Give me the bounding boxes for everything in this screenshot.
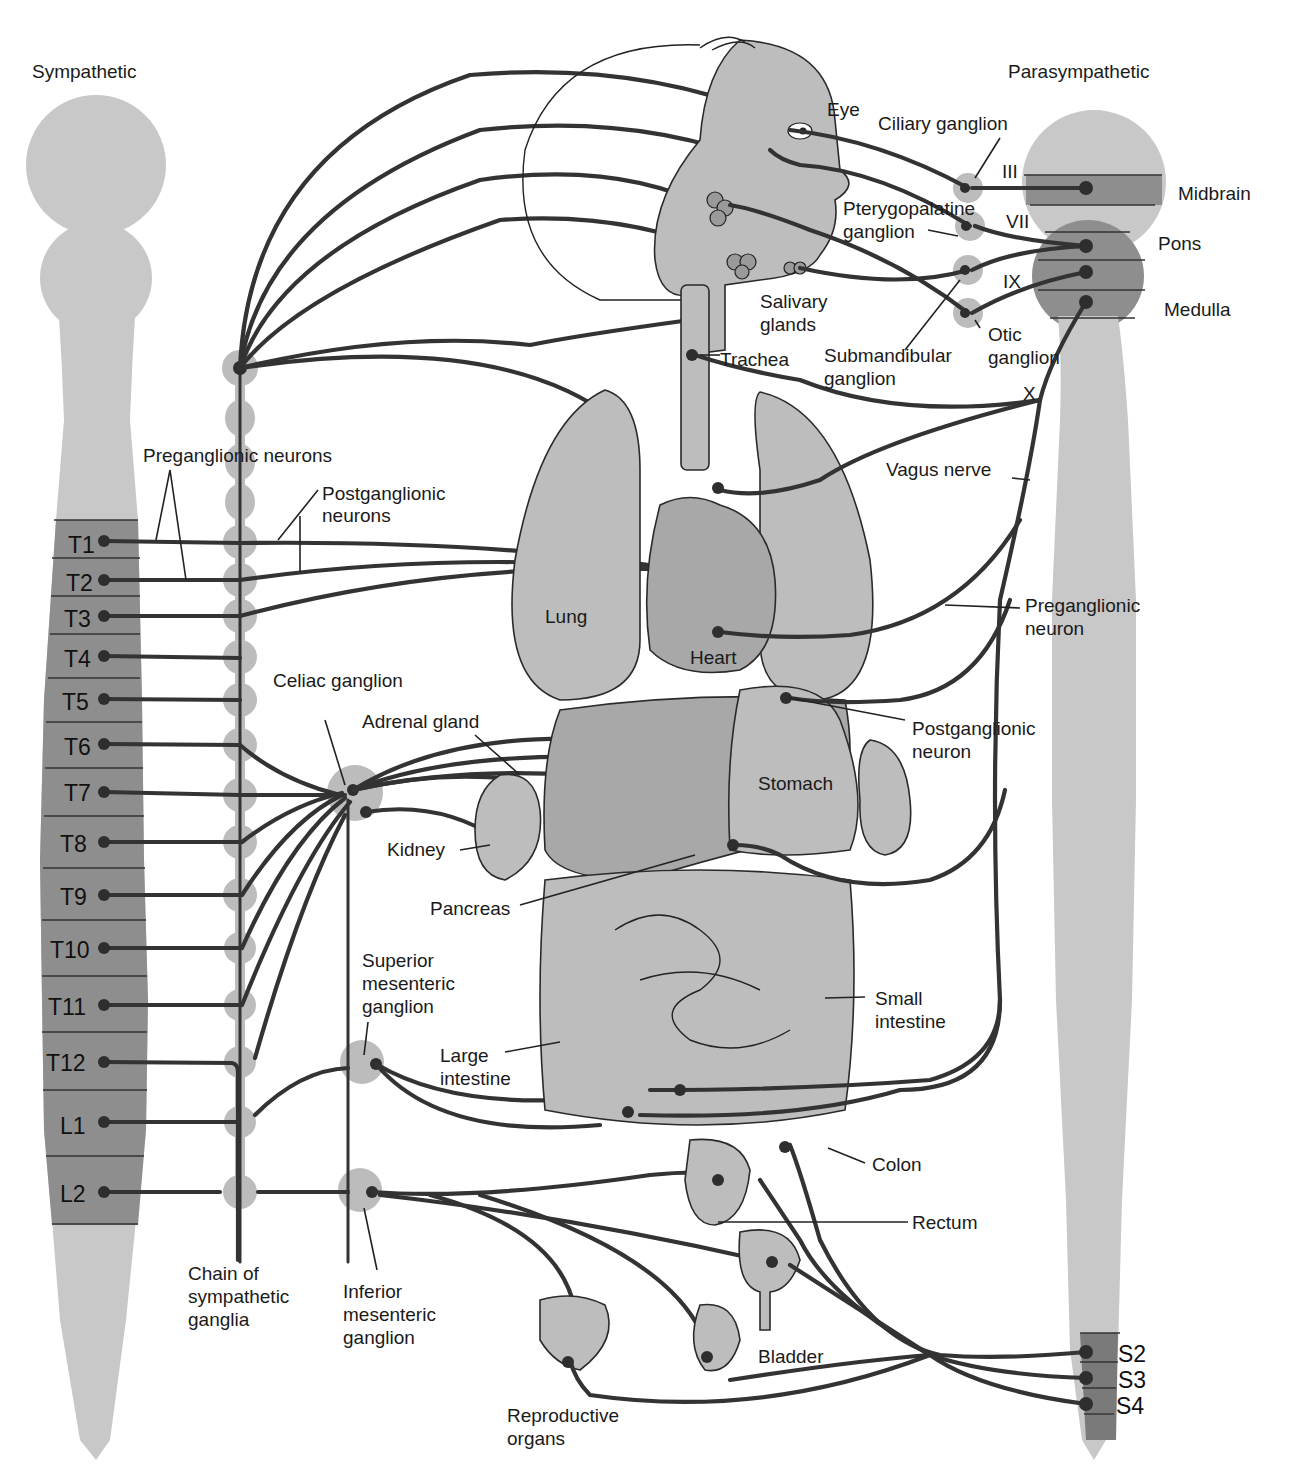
label-inferior-mesenteric-2: mesenteric [343,1304,436,1325]
label-postganglionic-neuron-1: Postganglionic [912,718,1036,739]
label-preganglionic-neuron-2: neuron [1025,618,1084,639]
label-celiac-ganglion: Celiac ganglion [273,670,403,691]
autonomic-nervous-system-diagram: T1 T2 T3 T4 T5 T6 T7 T8 T9 T10 T11 T12 L… [0,0,1290,1472]
label-chain-1: Chain of [188,1263,259,1284]
label-colon: Colon [872,1154,922,1175]
segment-s2: S2 [1118,1341,1146,1367]
label-reproductive-2: organs [507,1428,565,1449]
label-pons: Pons [1158,233,1201,254]
label-postganglionic-neuron-2: neuron [912,741,971,762]
segment-s3: S3 [1118,1367,1146,1393]
label-preganglionic-neurons: Preganglionic neurons [143,445,332,466]
label-bladder: Bladder [758,1346,824,1367]
label-otic-1: Otic [988,324,1022,345]
segment-t10: T10 [50,937,90,963]
uterus-shape [540,1296,609,1370]
label-heart: Heart [690,647,737,668]
label-inferior-mesenteric-3: ganglion [343,1327,415,1348]
segment-t8: T8 [60,831,87,857]
bladder-shape [739,1230,800,1330]
label-superior-mesenteric-3: ganglion [362,996,434,1017]
title-sympathetic: Sympathetic [32,61,137,82]
label-chain-3: ganglia [188,1309,250,1330]
label-ciliary-ganglion: Ciliary ganglion [878,113,1008,134]
label-chain-2: sympathetic [188,1286,289,1307]
segment-t12: T12 [46,1050,86,1076]
label-pterygopalatine-2: ganglion [843,221,915,242]
label-submandibular-2: ganglion [824,368,896,389]
sympathetic-spinal-cord [26,95,166,1460]
testis-shape [694,1304,740,1370]
label-adrenal-gland: Adrenal gland [362,711,479,732]
segment-s4: S4 [1116,1393,1144,1419]
label-submandibular-1: Submandibular [824,345,952,366]
label-salivary-2: glands [760,314,816,335]
segment-t4: T4 [64,646,91,672]
segment-t7: T7 [64,780,91,806]
label-pancreas: Pancreas [430,898,510,919]
label-eye: Eye [827,99,860,120]
label-postganglionic-neurons-1: Postganglionic [322,483,446,504]
label-cn-vii: VII [1006,211,1029,232]
label-large-intestine-2: intestine [440,1068,511,1089]
label-reproductive-1: Reproductive [507,1405,619,1426]
label-large-intestine-1: Large [440,1045,489,1066]
segment-l2: L2 [60,1181,86,1207]
label-small-intestine-2: intestine [875,1011,946,1032]
label-stomach: Stomach [758,773,833,794]
label-rectum: Rectum [912,1212,977,1233]
segment-t6: T6 [64,734,91,760]
right-kidney-shape [859,740,911,855]
left-lung-shape [512,390,640,700]
label-superior-mesenteric-1: Superior [362,950,434,971]
label-inferior-mesenteric-1: Inferior [343,1281,403,1302]
parasympathetic-spinal-cord [1022,110,1166,1460]
left-kidney-shape [475,774,541,880]
label-kidney: Kidney [387,839,446,860]
label-medulla: Medulla [1164,299,1231,320]
label-cn-x: X [1023,383,1036,404]
segment-l1: L1 [60,1113,86,1139]
label-cn-ix: IX [1003,271,1021,292]
title-parasympathetic: Parasympathetic [1008,61,1150,82]
right-lung-shape [755,392,873,700]
segment-t9: T9 [60,884,87,910]
label-superior-mesenteric-2: mesenteric [362,973,455,994]
label-preganglionic-neuron-1: Preganglionic [1025,595,1140,616]
label-vagus-nerve: Vagus nerve [886,459,991,480]
segment-t5: T5 [62,689,89,715]
label-trachea: Trachea [720,349,789,370]
segment-t11: T11 [48,994,86,1020]
label-postganglionic-neurons-2: neurons [322,505,391,526]
segment-t2: T2 [66,570,93,596]
label-cn-iii: III [1002,161,1018,182]
segment-t1: T1 [68,532,95,558]
label-small-intestine-1: Small [875,988,923,1009]
label-pterygopalatine-1: Pterygopalatine [843,198,975,219]
label-salivary-1: Salivary [760,291,828,312]
segment-t3: T3 [64,606,91,632]
label-otic-2: ganglion [988,347,1060,368]
label-lung: Lung [545,606,587,627]
label-midbrain: Midbrain [1178,183,1251,204]
abdomen-illustration [475,686,911,1370]
